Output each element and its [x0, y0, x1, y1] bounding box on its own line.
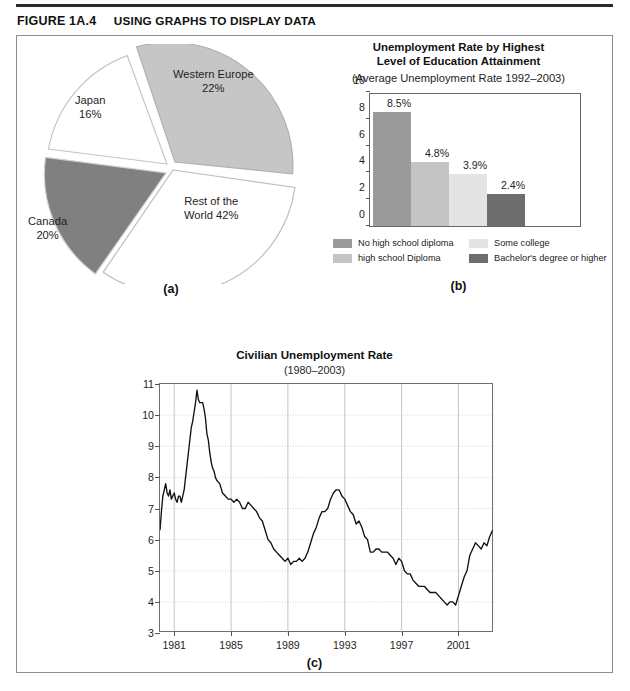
line-y-tick-label: 5 — [148, 565, 154, 577]
line-y-tick-mark — [155, 384, 160, 385]
bar-3 — [487, 194, 525, 226]
line-y-tick-mark — [155, 540, 160, 541]
bar-y-tick-label: 8 — [359, 101, 365, 113]
line-y-tick-label: 7 — [148, 503, 154, 515]
bar-value-label-3: 2.4% — [501, 179, 525, 191]
line-x-tick-label: 1985 — [219, 639, 243, 651]
bar-y-tick-mark — [366, 91, 370, 92]
figure-caption: FIGURE 1A.4 USING GRAPHS TO DISPLAY DATA — [17, 11, 316, 29]
line-y-tick-label: 3 — [148, 627, 154, 639]
legend-label-no-diploma: No high school diploma — [358, 238, 454, 248]
bar-y-tick-mark — [366, 145, 370, 146]
bar-y-tick-label: 6 — [359, 128, 365, 140]
line-x-tick-label: 1989 — [276, 639, 300, 651]
line-y-tick-label: 8 — [148, 471, 154, 483]
pie-label-japan: Japan 16% — [75, 94, 105, 121]
bar-value-label-2: 3.9% — [463, 159, 487, 171]
legend-label-some-college: Some college — [494, 238, 550, 248]
bar-legend-item-3: Bachelor's degree or higher — [469, 253, 605, 263]
line-y-tick-mark — [155, 571, 160, 572]
figure-number: FIGURE 1A.4 — [17, 14, 96, 28]
bar-1 — [411, 162, 449, 226]
line-x-tick-mark — [231, 631, 232, 636]
bar-y-tick-label: 0 — [359, 208, 365, 220]
panel-b-title: Unemployment Rate by Highest Level of Ed… — [317, 40, 600, 68]
bar-legend-item-1: Some college — [469, 238, 605, 248]
bar-legend: No high school diploma Some college high… — [333, 238, 605, 268]
line-x-tick-label: 2001 — [447, 639, 471, 651]
line-x-tick-mark — [174, 631, 175, 636]
line-y-tick-mark — [155, 509, 160, 510]
bar-y-tick-mark — [366, 198, 370, 199]
legend-swatch-some-college — [469, 239, 488, 248]
panel-c-sublabel: (c) — [17, 656, 612, 670]
line-y-tick-label: 6 — [148, 534, 154, 546]
line-y-tick-mark — [155, 602, 160, 603]
panel-b-sublabel: (b) — [317, 279, 600, 293]
panel-a-pie-chart: Western Europe 22% Japan 16% Canada 20% … — [21, 44, 321, 319]
bar-legend-item-0: No high school diploma — [333, 238, 469, 248]
panel-c-title: Civilian Unemployment Rate — [17, 348, 612, 361]
legend-label-hs-diploma: high school Diploma — [358, 253, 441, 263]
bar-legend-row: No high school diploma Some college — [333, 238, 605, 248]
line-y-tick-label: 10 — [142, 409, 154, 421]
line-y-tick-mark — [155, 477, 160, 478]
pie-label-western-europe: Western Europe 22% — [173, 68, 254, 95]
bar-y-tick-mark — [366, 118, 370, 119]
line-y-tick-label: 9 — [148, 440, 154, 452]
bar-y-tick-label: 4 — [359, 154, 365, 166]
line-x-tick-mark — [402, 631, 403, 636]
line-x-tick-label: 1997 — [390, 639, 414, 651]
bar-plot-area: 02468108.5%4.8%3.9%2.4% — [369, 93, 581, 227]
bar-y-tick-label: 2 — [359, 181, 365, 193]
line-y-tick-label: 11 — [143, 378, 154, 390]
unemployment-rate-series — [160, 390, 493, 605]
bar-y-tick-label: 10 — [353, 74, 365, 86]
panel-b-bar-chart: Unemployment Rate by Highest Level of Ed… — [317, 36, 612, 306]
bar-0 — [373, 112, 411, 226]
bar-value-label-1: 4.8% — [425, 147, 449, 159]
line-x-tick-mark — [458, 631, 459, 636]
line-x-tick-label: 1981 — [162, 639, 186, 651]
figure-title: USING GRAPHS TO DISPLAY DATA — [114, 14, 316, 28]
legend-label-bachelors: Bachelor's degree or higher — [494, 253, 607, 263]
bar-y-tick-mark — [366, 171, 370, 172]
line-x-tick-label: 1993 — [333, 639, 357, 651]
bar-legend-row: high school Diploma Bachelor's degree or… — [333, 253, 605, 263]
panel-a-sublabel: (a) — [21, 282, 321, 296]
pie-svg — [21, 44, 321, 284]
panel-c-line-chart: Civilian Unemployment Rate (1980–2003) 3… — [17, 326, 612, 671]
line-x-tick-mark — [345, 631, 346, 636]
legend-swatch-hs-diploma — [333, 254, 352, 263]
figure-frame: Western Europe 22% Japan 16% Canada 20% … — [16, 35, 613, 673]
legend-swatch-no-diploma — [333, 239, 352, 248]
panel-c-subtitle: (1980–2003) — [17, 364, 612, 376]
line-y-tick-label: 4 — [148, 596, 154, 608]
pie-label-canada: Canada 20% — [28, 215, 67, 242]
line-plot-area: 34567891011198119851989199319972001 — [159, 383, 493, 632]
bar-2 — [449, 174, 487, 226]
legend-swatch-bachelors — [469, 254, 488, 263]
line-y-tick-mark — [155, 415, 160, 416]
line-x-tick-mark — [288, 631, 289, 636]
bar-value-label-0: 8.5% — [387, 97, 411, 109]
header-rule — [16, 4, 613, 7]
pie-label-rest-of-world: Rest of the World 42% — [184, 195, 239, 222]
line-chart-svg — [160, 384, 494, 633]
bar-legend-item-2: high school Diploma — [333, 253, 469, 263]
bar-y-tick-mark — [366, 225, 370, 226]
line-y-tick-mark — [155, 633, 160, 634]
line-y-tick-mark — [155, 446, 160, 447]
